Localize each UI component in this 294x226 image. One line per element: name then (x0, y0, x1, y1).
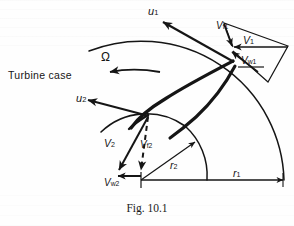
label-vw1-subscript: w1 (248, 58, 257, 65)
label-v1-subscript: 1 (250, 38, 254, 46)
figure-caption: Fig. 10.1 (0, 202, 294, 214)
label-vw1: Vw1 (241, 56, 256, 66)
label-vw2: Vw2 (104, 178, 119, 188)
label-u2-subscript: 2 (82, 95, 86, 104)
figure-container: u1 u2 Ω Turbine case V1 Vf1 Vw1 V2 Vf2 V… (0, 0, 294, 226)
rotation-arrow-omega (110, 70, 160, 72)
label-r2-subscript: 2 (174, 163, 178, 171)
label-v2: V2 (104, 138, 115, 149)
label-u1-subscript: 1 (154, 8, 158, 17)
label-omega: Ω (101, 51, 110, 63)
label-vf2-subscript: f2 (147, 142, 153, 149)
label-turbine-case: Turbine case (8, 70, 72, 81)
label-r1-subscript: 1 (237, 171, 241, 179)
inlet-velocity-triangle (224, 23, 288, 82)
label-r2: r2 (170, 160, 177, 171)
label-vf1: Vf1 (216, 21, 228, 31)
vector-u2 (88, 100, 149, 116)
label-v1: V1 (243, 35, 254, 46)
label-v2-subscript: 2 (111, 141, 115, 149)
label-r1: r1 (233, 168, 240, 179)
label-u2: u2 (76, 93, 86, 104)
label-u1: u1 (148, 6, 158, 17)
inner-hub-arc (101, 114, 207, 180)
label-vf1-subscript: f1 (223, 23, 229, 30)
radius-dimension-r1 (141, 172, 283, 188)
label-vf2: Vf2 (140, 140, 152, 150)
label-vw2-subscript: w2 (111, 180, 120, 187)
